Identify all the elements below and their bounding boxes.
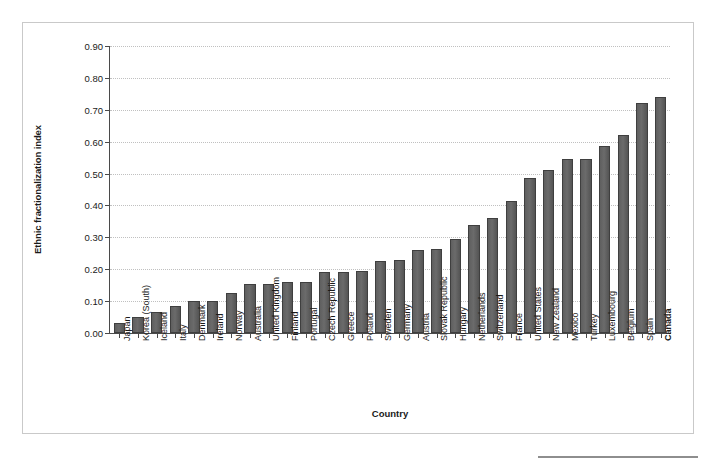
x-tick-mark [381, 333, 382, 338]
x-tick-mark [511, 333, 512, 338]
bar-series [110, 46, 670, 333]
x-tick-label: Finland [291, 311, 300, 341]
figure: Ethnic fractionalization index 0.000.100… [0, 0, 715, 464]
x-tick-label: United States [534, 287, 543, 341]
x-tick-label: Spain [646, 318, 655, 341]
x-tick-label: New Zealand [552, 288, 561, 341]
x-tick-label: Slovak Republic [440, 276, 449, 341]
y-tick-label: 0.90 [63, 41, 110, 52]
plot-area [110, 46, 670, 333]
x-tick-mark [437, 333, 438, 338]
x-tick-label: Canada [664, 308, 673, 341]
x-tick-label: Japan [123, 316, 132, 341]
x-tick-label: Czech Republic [328, 278, 337, 341]
y-tick-mark [105, 269, 110, 270]
x-tick-label: Switzerland [496, 294, 505, 341]
y-tick-label: 0.00 [63, 328, 110, 339]
x-tick-label: Turkey [590, 314, 599, 341]
x-tick-mark [213, 333, 214, 338]
y-tick-mark [105, 205, 110, 206]
x-tick-mark [586, 333, 587, 338]
y-tick-label: 0.10 [63, 296, 110, 307]
x-tick-mark [418, 333, 419, 338]
x-tick-mark [194, 333, 195, 338]
bar [618, 135, 630, 333]
y-tick-mark [105, 110, 110, 111]
x-tick-label: Ireland [216, 313, 225, 341]
x-tick-label: Italy [179, 324, 188, 341]
x-tick-label: Austria [422, 313, 431, 341]
y-tick-mark [105, 46, 110, 47]
x-tick-label: Belgium [627, 308, 636, 341]
x-tick-mark [605, 333, 606, 338]
x-tick-label: Portugal [310, 307, 319, 341]
x-tick-label: Hungary [459, 307, 468, 341]
y-tick-mark [105, 142, 110, 143]
x-tick-mark [269, 333, 270, 338]
x-tick-mark [157, 333, 158, 338]
x-tick-mark [493, 333, 494, 338]
y-tick-mark [105, 78, 110, 79]
x-tick-mark [530, 333, 531, 338]
x-tick-mark [362, 333, 363, 338]
y-tick-mark [105, 174, 110, 175]
y-tick-label: 0.60 [63, 136, 110, 147]
y-tick-label: 0.50 [63, 168, 110, 179]
x-tick-label: Australia [254, 306, 263, 341]
x-tick-mark [138, 333, 139, 338]
y-tick-label: 0.20 [63, 264, 110, 275]
x-tick-label: Korea (South) [142, 285, 151, 341]
x-tick-label: Greece [347, 311, 356, 341]
x-tick-label: Denmark [198, 304, 207, 341]
x-tick-label: Germany [403, 304, 412, 341]
x-tick-mark [474, 333, 475, 338]
x-tick-mark [119, 333, 120, 338]
x-tick-label: France [515, 313, 524, 341]
x-tick-mark [250, 333, 251, 338]
x-tick-label: Sweden [384, 308, 393, 341]
x-tick-mark [231, 333, 232, 338]
y-tick-mark [105, 333, 110, 334]
x-tick-mark [325, 333, 326, 338]
x-tick-mark [175, 333, 176, 338]
y-tick-mark [105, 237, 110, 238]
y-tick-label: 0.30 [63, 232, 110, 243]
x-tick-label: Iceland [160, 312, 169, 341]
x-tick-mark [567, 333, 568, 338]
x-tick-mark [661, 333, 662, 338]
x-tick-label: Poland [366, 313, 375, 341]
y-tick-label: 0.80 [63, 72, 110, 83]
x-tick-mark [399, 333, 400, 338]
y-tick-label: 0.70 [63, 104, 110, 115]
x-tick-label: United Kingdom [272, 277, 281, 341]
x-tick-label: Luxembourg [608, 291, 617, 341]
x-tick-mark [343, 333, 344, 338]
bar [655, 97, 667, 333]
footer-rule [538, 456, 698, 458]
x-tick-label: Netherlands [478, 292, 487, 341]
x-tick-mark [287, 333, 288, 338]
x-tick-mark [623, 333, 624, 338]
y-tick-mark [105, 301, 110, 302]
x-axis-title: Country [110, 408, 670, 419]
x-tick-mark [549, 333, 550, 338]
x-tick-mark [306, 333, 307, 338]
bar [562, 159, 574, 333]
x-tick-label: Norway [235, 310, 244, 341]
bar [580, 159, 592, 333]
y-tick-label: 0.40 [63, 200, 110, 211]
y-axis-title: Ethnic fractionalization index [31, 46, 45, 333]
x-tick-label: Mexico [571, 312, 580, 341]
bar [636, 103, 648, 333]
x-tick-mark [455, 333, 456, 338]
x-tick-mark [642, 333, 643, 338]
